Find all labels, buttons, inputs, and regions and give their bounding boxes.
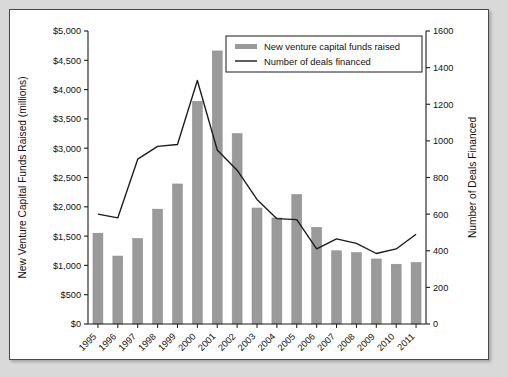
x-axis-tick-label: 1997 [117, 331, 139, 353]
x-axis-tick-label: 2011 [395, 331, 416, 352]
x-axis-tick-label: 2000 [176, 331, 198, 353]
y-axis-right-tick-label: 1600 [433, 26, 453, 36]
x-axis-tick-label: 2008 [335, 331, 357, 353]
x-axis-category-labels: 1995199619971998199920002001200220032004… [77, 331, 417, 353]
y-axis-left-tick-label: $5,000 [53, 26, 81, 36]
bar [212, 51, 222, 324]
x-axis-tick-label: 2010 [375, 331, 397, 353]
chart-legend: New venture capital funds raised Number … [226, 36, 422, 72]
y-axis-left-tick-label: $2,500 [53, 173, 81, 183]
y-axis-left-tick-label: $0 [71, 319, 81, 329]
y-axis-right-tick-label: 600 [433, 210, 448, 220]
y-axis-left-tick-label: $500 [61, 290, 81, 300]
x-axis-tick-label: 2002 [216, 331, 238, 353]
y-axis-right-tick-label: 400 [433, 246, 448, 256]
bar [232, 134, 242, 324]
x-axis-tick-label: 2005 [276, 331, 298, 353]
bar [312, 227, 322, 324]
bar [411, 262, 421, 324]
y-axis-left-tick-label: $3,000 [53, 144, 81, 154]
bar [272, 218, 282, 324]
y-axis-right-tick-label: 800 [433, 173, 448, 183]
y-axis-right-title: Number of Deals Financed [467, 117, 478, 239]
y-axis-left-tick-label: $4,000 [53, 85, 81, 95]
bar [133, 238, 143, 324]
bar [391, 264, 401, 324]
bar [371, 259, 381, 324]
x-axis-tick-label: 2001 [196, 331, 218, 353]
x-axis-tick-label: 2007 [315, 331, 337, 353]
y-axis-left-tick-label: $1,500 [53, 232, 81, 242]
page-background: $0$500$1,000$1,500$2,000$2,500$3,000$3,5… [0, 0, 508, 377]
y-axis-right-tick-label: 1400 [433, 63, 453, 73]
legend-label-funds-raised: New venture capital funds raised [264, 41, 400, 52]
bar [192, 101, 202, 324]
figure-card: $0$500$1,000$1,500$2,000$2,500$3,000$3,5… [9, 9, 489, 360]
y-axis-left-tick-label: $1,000 [53, 261, 81, 271]
y-axis-right-tick-label: 200 [433, 283, 448, 293]
x-axis-ticks [98, 324, 416, 328]
x-axis-tick-label: 2003 [236, 331, 258, 353]
y-axis-left-tick-label: $2,000 [53, 202, 81, 212]
y-axis-right-ticks: 02004006008001000120014001600 [426, 26, 453, 329]
bar [153, 209, 163, 324]
legend-marker-bar [235, 44, 257, 49]
bar [252, 208, 262, 324]
y-axis-left-tick-label: $3,500 [53, 114, 81, 124]
y-axis-left-title: New Venture Capital Funds Raised (millio… [17, 76, 28, 278]
x-axis-tick-label: 1995 [77, 331, 99, 353]
bar [113, 256, 123, 324]
y-axis-right-tick-label: 1200 [433, 100, 453, 110]
x-axis-tick-label: 1999 [156, 331, 178, 353]
x-axis-tick-label: 2004 [256, 331, 278, 353]
y-axis-left-tick-label: $4,500 [53, 56, 81, 66]
x-axis-tick-label: 2009 [355, 331, 377, 353]
bar [93, 233, 103, 324]
bar [351, 253, 361, 324]
x-axis-tick-label: 1996 [97, 331, 119, 353]
x-axis-tick-label: 2006 [296, 331, 318, 353]
bar [332, 251, 342, 324]
bar [292, 194, 302, 324]
y-axis-right-tick-label: 1000 [433, 136, 453, 146]
bar-series-new-venture-capital-funds-raised [93, 51, 421, 324]
y-axis-left-ticks: $0$500$1,000$1,500$2,000$2,500$3,000$3,5… [53, 26, 88, 329]
x-axis-tick-label: 1998 [136, 331, 158, 353]
y-axis-right-tick-label: 0 [433, 319, 438, 329]
legend-label-deals-financed: Number of deals financed [264, 56, 371, 67]
bar [173, 184, 183, 324]
combo-chart: $0$500$1,000$1,500$2,000$2,500$3,000$3,5… [10, 10, 488, 359]
